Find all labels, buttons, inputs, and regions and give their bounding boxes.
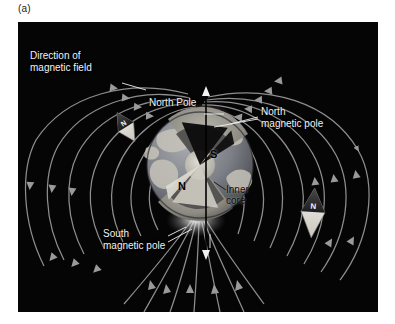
- label-inner-core-line2: core: [226, 195, 245, 206]
- label-north-pole: North Pole: [149, 97, 196, 109]
- magnet-north-letter: N: [178, 180, 186, 192]
- panel-label: (a): [18, 3, 31, 14]
- magnet-south-letter: S: [210, 148, 217, 160]
- label-inner-core: Inner core: [226, 184, 249, 206]
- label-south-magnetic-line2: magnetic pole: [103, 240, 165, 251]
- svg-text:N: N: [310, 202, 317, 211]
- label-south-magnetic-pole: South magnetic pole: [103, 228, 165, 252]
- figure-root: (a): [0, 0, 395, 324]
- label-inner-core-line1: Inner: [226, 184, 249, 195]
- label-direction-line1: Direction of: [30, 50, 81, 61]
- label-direction-line2: magnetic field: [30, 62, 92, 73]
- label-north-magnetic-line2: magnetic pole: [261, 118, 323, 129]
- label-direction-of-magnetic-field: Direction of magnetic field: [30, 50, 92, 74]
- label-south-magnetic-line1: South: [103, 228, 129, 239]
- compass-left: N: [109, 108, 142, 146]
- label-north-magnetic-line1: North: [261, 106, 285, 117]
- label-north-magnetic-pole: North magnetic pole: [261, 106, 323, 130]
- earth-magnetic-field-diagram: N N Direction of magnetic field North Po…: [18, 22, 378, 312]
